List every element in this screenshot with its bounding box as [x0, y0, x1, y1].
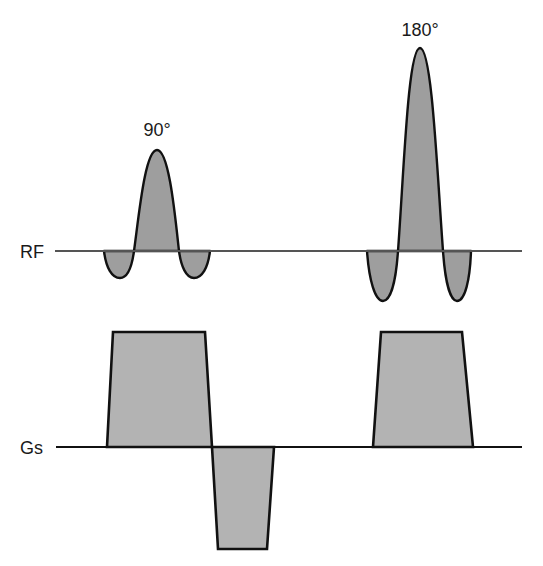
rf-label: RF — [20, 242, 44, 262]
rf-90-main-lobe — [134, 150, 179, 251]
rf-180-right-sidelobe — [443, 251, 471, 301]
rf-90-right-sidelobe — [179, 251, 210, 278]
gs-slice-select-180-lobe — [373, 332, 473, 447]
gs-row: Gs — [20, 332, 522, 549]
rf-90-left-sidelobe — [104, 251, 134, 278]
rf-180-main-lobe — [398, 48, 443, 251]
rf-row: RF 90° 180° — [20, 20, 522, 301]
rf-180-left-sidelobe — [367, 251, 398, 301]
pulse-sequence-diagram: RF 90° 180° Gs — [0, 0, 543, 566]
rf-pulse-180: 180° — [367, 20, 471, 301]
gs-rephasing-lobe — [212, 447, 274, 549]
gs-slice-select-90-lobe — [107, 332, 212, 447]
rf-90-label: 90° — [143, 120, 170, 140]
rf-180-label: 180° — [401, 20, 438, 40]
gs-label: Gs — [20, 438, 43, 458]
rf-pulse-90: 90° — [104, 120, 210, 278]
